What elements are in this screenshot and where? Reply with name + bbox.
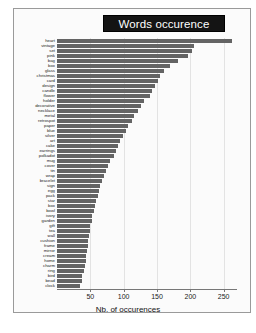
bar [57,104,141,108]
bar [57,89,152,93]
bar-row: garden [57,219,237,223]
bar [57,174,104,178]
bar [57,94,150,98]
x-axis-tick-label: 150 [151,293,163,300]
bar [57,124,128,128]
bar [57,244,88,248]
bar [57,64,170,68]
bar-row: frame [57,244,237,248]
x-axis-tick-label: 50 [86,293,94,300]
bar-row: paper [57,124,237,128]
bar [57,49,192,53]
bar [57,219,92,223]
bar [57,279,82,283]
x-axis-title: Nb. of occurences [0,305,256,314]
bar-row: glass [57,69,237,73]
bar-row: heart [57,39,237,43]
x-axis-tick-label: 100 [118,293,130,300]
bar [57,99,144,103]
bar [57,44,194,48]
bar-row: wrap [57,174,237,178]
bar-row: design [57,84,237,88]
bar [57,139,120,143]
bar-row: bracelet [57,179,237,183]
bar [57,269,84,273]
bar [57,169,106,173]
bar-row: mirror [57,249,237,253]
bar-row: candle [57,89,237,93]
bar [57,109,138,113]
bar-row: art [57,139,237,143]
bar [57,129,126,133]
bar-row: polkadot [57,154,237,158]
bar-row: card [57,79,237,83]
bar [57,209,94,213]
bar-row: bird [57,274,237,278]
bar [57,134,123,138]
bar-row: pack [57,194,237,198]
bar [57,114,134,118]
bar-row: box [57,204,237,208]
bar [57,39,232,43]
bar [57,79,158,83]
bar-row: set [57,49,237,53]
chart-title-banner: Words occurence [103,15,225,32]
bar-row: bag [57,59,237,63]
bar-row: tin [57,169,237,173]
bar-row: ivory [57,214,237,218]
x-axis: 50100150200250 [57,289,237,290]
bar [57,59,178,63]
bar [57,184,100,188]
bar [57,84,155,88]
bar-row: wall [57,234,237,238]
x-axis-tick [224,289,225,292]
bar-row: star [57,199,237,203]
bar-row: egg [57,189,237,193]
bar [57,254,86,258]
bar [57,119,132,123]
bar [57,249,87,253]
bar-row: decorative [57,104,237,108]
bar-row: cream [57,254,237,258]
bar [57,179,102,183]
bar [57,164,108,168]
x-axis-tick-label: 200 [184,293,196,300]
bar [57,159,110,163]
bar [57,204,95,208]
page-title: Words occurence [119,18,210,30]
x-axis-tick-label: 250 [218,293,230,300]
bar [57,54,188,58]
bar [57,194,98,198]
chart-container: Words occurence heartvintagesetpinkbagbo… [0,0,256,333]
bar [57,69,164,73]
x-axis-tick [90,289,91,292]
y-axis-tick-label: clock [45,284,55,288]
bar [57,264,85,268]
bar [57,144,118,148]
bar [57,189,99,193]
bar-row: holder [57,99,237,103]
bar-row: gift [57,224,237,228]
bar-row: home [57,259,237,263]
bar-row: necklace [57,109,237,113]
x-axis-tick [157,289,158,292]
bar-row: bead [57,279,237,283]
bar [57,199,96,203]
bar [57,74,160,78]
bar [57,234,89,238]
bar-row: flower [57,94,237,98]
bar-row: cover [57,164,237,168]
bar-row: sign [57,184,237,188]
bar-row: blue [57,129,237,133]
bar-row: vintage [57,44,237,48]
bar [57,284,80,288]
plot-area: heartvintagesetpinkbagboxglasschristmasc… [57,39,237,289]
bar-row: cushion [57,239,237,243]
bar-row: ring [57,269,237,273]
bar-row: charm [57,264,237,268]
bar-row: box [57,64,237,68]
bar-row: retrospot [57,119,237,123]
x-axis-tick [190,289,191,292]
bar-row: metal [57,114,237,118]
bar [57,274,82,278]
